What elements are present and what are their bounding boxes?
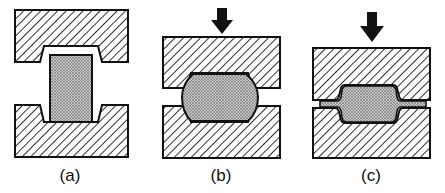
panel-b bbox=[163, 8, 280, 158]
arrow-down-icon bbox=[211, 8, 233, 34]
panel-label-a: (a) bbox=[60, 166, 81, 186]
workpiece bbox=[182, 74, 258, 121]
arrow-down-icon bbox=[360, 12, 384, 42]
panel-label-b: (b) bbox=[211, 166, 232, 186]
panel-c bbox=[313, 12, 430, 158]
billet bbox=[50, 55, 92, 122]
panel-a bbox=[15, 10, 128, 157]
forging-diagram bbox=[0, 0, 445, 193]
panel-label-c: (c) bbox=[361, 166, 381, 186]
